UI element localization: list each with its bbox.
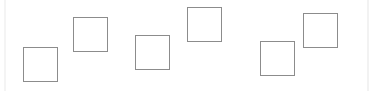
right-edge-divider <box>367 0 369 91</box>
square-box-4 <box>187 7 222 42</box>
left-edge-divider <box>4 0 6 91</box>
square-box-3 <box>135 35 170 70</box>
square-box-2 <box>73 17 108 52</box>
square-box-5 <box>260 41 295 76</box>
diagram-canvas <box>0 0 381 91</box>
square-box-1 <box>23 47 58 82</box>
square-box-6 <box>303 13 338 48</box>
